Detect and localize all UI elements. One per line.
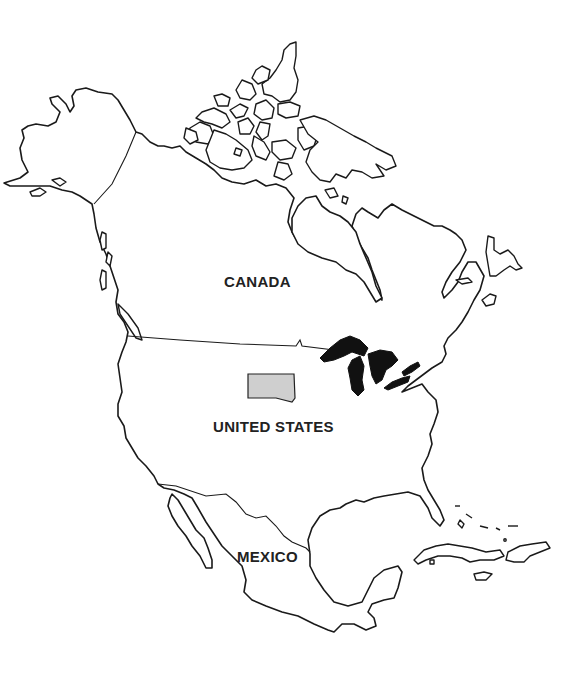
- north-america-map: [0, 0, 584, 674]
- label-mexico: MEXICO: [237, 548, 298, 565]
- label-canada: CANADA: [224, 273, 291, 290]
- south-dakota-highlight: [248, 374, 295, 402]
- label-united-states: UNITED STATES: [213, 418, 334, 435]
